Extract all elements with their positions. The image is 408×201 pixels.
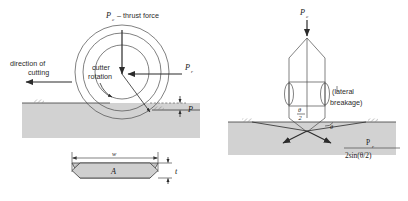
- cutting-direction-label-line2: cutting: [28, 68, 49, 77]
- formula-numerator-symbol: P: [366, 138, 370, 147]
- right-panel: P c (lateral breakage) θ 2 θ P r 2sin(θ/…: [228, 8, 400, 160]
- cutter-rotation-label-line2: rotation: [88, 72, 112, 81]
- thrust-force-symbol-right: P: [299, 8, 305, 17]
- surface-hatch-right: [154, 107, 164, 110]
- cutting-direction-label-line1: direction of: [10, 59, 45, 68]
- chip-thickness-label: t: [175, 167, 178, 176]
- rolling-force-subscript: r: [191, 69, 193, 74]
- surface-hatch-right-a: [242, 119, 252, 122]
- thrust-force-text: – thrust force: [117, 11, 159, 20]
- surface-hatch-right-b: [368, 119, 378, 122]
- theta-angle-label: θ: [330, 123, 333, 130]
- lateral-breakage-label-line2: breakage): [330, 98, 362, 107]
- lateral-breakage-label-line1: (lateral: [332, 87, 354, 96]
- left-panel: P c – thrust force direction of cutting …: [10, 11, 200, 184]
- thrust-force-symbol-left: P: [105, 11, 111, 20]
- chip-area-label: A: [110, 167, 117, 176]
- cutter-rotation-label-line1: cutter: [92, 63, 111, 72]
- surface-hatch-left: [34, 100, 44, 103]
- penetration-depth-label: P: [187, 105, 193, 114]
- technical-figure: P c – thrust force direction of cutting …: [0, 0, 408, 201]
- figure-svg: P c – thrust force direction of cutting …: [0, 0, 408, 201]
- theta-half-denominator: 2: [299, 114, 303, 121]
- formula-numerator-subscript: r: [372, 144, 374, 149]
- rock-mass-left: [22, 103, 200, 138]
- formula-denominator: 2sin(θ/2): [345, 151, 372, 160]
- chip-width-label: w: [112, 150, 117, 157]
- thrust-force-subscript-right: c: [306, 14, 309, 19]
- theta-half-numerator: θ: [298, 106, 301, 113]
- rolling-force-symbol: P: [184, 63, 190, 72]
- thrust-force-subscript-left: c: [112, 17, 115, 22]
